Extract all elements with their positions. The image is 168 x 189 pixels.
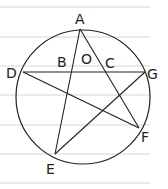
label-F: F (141, 129, 149, 145)
diagram-canvas: A B O C D G F E (0, 0, 168, 189)
chords (23, 29, 145, 154)
segment-DF (23, 72, 139, 128)
ruled-lines (0, 7, 150, 183)
label-B: B (57, 54, 67, 70)
label-E: E (46, 161, 55, 177)
label-C: C (105, 55, 115, 71)
label-O: O (81, 51, 92, 67)
label-G: G (147, 66, 158, 82)
label-D: D (6, 65, 17, 81)
label-A: A (75, 11, 85, 27)
